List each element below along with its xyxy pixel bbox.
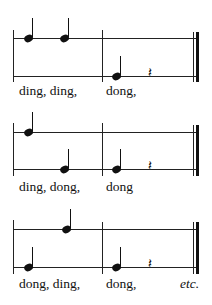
final-barline-thin (193, 222, 194, 274)
start-barline (13, 220, 14, 274)
lower-line (13, 267, 197, 268)
upper-line (13, 229, 197, 230)
staff-system-3: 𝄽 dong, ding, dong, etc. (0, 0, 212, 305)
lyric: dong, (106, 277, 136, 291)
barline (102, 222, 103, 274)
lyric: dong, ding, (19, 277, 80, 291)
etc-marking: etc. (180, 277, 199, 291)
final-barline-thick (196, 222, 199, 274)
quarter-rest-icon: 𝄽 (148, 257, 152, 270)
